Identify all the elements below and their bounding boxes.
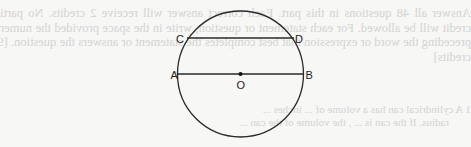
circle-diagram: A B C D O (0, 0, 471, 147)
center-point-o (239, 72, 243, 76)
label-c: C (176, 33, 184, 45)
label-a: A (171, 69, 179, 81)
label-o: O (237, 79, 246, 91)
label-b: B (306, 69, 313, 81)
label-d: D (295, 33, 303, 45)
